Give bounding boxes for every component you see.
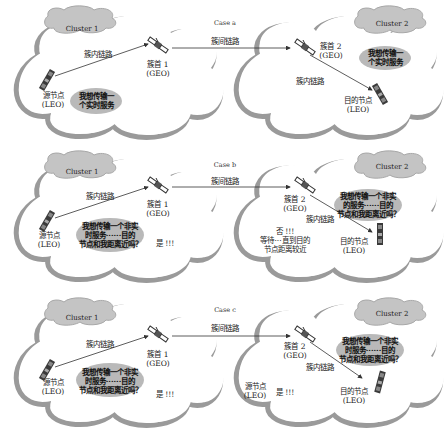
source-node-label: 源节点(LEO) (38, 378, 68, 396)
cluster-head-2-label: 簇首 2(GEO) (280, 342, 310, 360)
cluster-head-2-label: 簇首 2(GEO) (316, 42, 346, 60)
cluster-1-label: Cluster 1 (62, 25, 102, 34)
cluster-1-label: Cluster 1 (62, 314, 102, 323)
cluster-head-1-label: 簇首 1(GEO) (143, 350, 173, 368)
case-label: Case b (205, 161, 245, 170)
left-reply-text: 是 !!! (150, 239, 180, 248)
right-bubble-text: 我想传输一个非实的服务······目的节点和我距离近吗？ (336, 192, 400, 219)
case-a-panel: Case a Cluster 1 Cluster 2 簇间链路 簇内链路 簇内链… (0, 0, 447, 145)
right-intra-link-label: 簇内链路 (300, 215, 340, 224)
left-bubble-text: 我想传输一个非实时服务······目的节点和我距离近吗？ (78, 222, 142, 249)
dest-node-label: 目的节点(LEO) (340, 96, 376, 114)
right-intra-link-label: 簇内链路 (290, 77, 330, 86)
cluster-2-label: Cluster 2 (372, 20, 412, 29)
inter-link-label: 簇间链路 (205, 324, 245, 333)
left-reply-text: 是 !!! (150, 390, 180, 399)
cluster-2-label: Cluster 2 (372, 310, 412, 319)
dest-node-label: 目的节点(LEO) (336, 237, 372, 255)
cluster-head-2-label: 簇首 2(GEO) (280, 195, 310, 213)
right-intra-link-label: 簇内链路 (300, 363, 340, 372)
source-node-label: 源节点(LEO) (38, 91, 68, 109)
left-intra-link-label: 簇内链路 (78, 50, 118, 59)
leo-satellite-icon (377, 223, 383, 245)
case-label: Case c (205, 306, 245, 315)
inter-link-label: 簇间链路 (205, 37, 245, 46)
right-source-node-label: 源节点(LEO) (240, 382, 270, 400)
right-reply-text: 否 !!!等待···直到目的节点距离较近 (250, 227, 320, 254)
cluster-2-label: Cluster 2 (372, 163, 412, 172)
case-label: Case a (205, 19, 245, 28)
right-bubble-text: 我想传输一个非实时服务······目的节点和我距离近吗？ (338, 337, 402, 364)
left-bubble-text: 我想传输一个实时服务 (72, 92, 120, 110)
dest-node-label: 目的节点(LEO) (336, 387, 372, 405)
inter-link-label: 簇间链路 (205, 177, 245, 186)
left-bubble-text: 我想传输一个非实时服务······目的节点和我距离近吗？ (78, 368, 142, 395)
cluster-1-label: Cluster 1 (62, 168, 102, 177)
left-intra-link-label: 簇内链路 (80, 192, 120, 201)
left-intra-link-label: 簇内链路 (80, 340, 120, 349)
right-cluster-cloud (236, 16, 443, 138)
right-bubble-text: 我想传输一个实时服务 (361, 49, 409, 67)
case-c-panel: Case c Cluster 1 Cluster 2 簇间链路 簇内链路 簇内链… (0, 290, 447, 435)
cluster-head-1-label: 簇首 1(GEO) (143, 200, 173, 218)
source-node-label: 源节点(LEO) (34, 231, 64, 249)
cluster-head-1-label: 簇首 1(GEO) (143, 60, 173, 78)
right-reply-text: 是 !!! (270, 388, 300, 397)
case-b-panel: Case b Cluster 1 Cluster 2 簇间链路 簇内链路 簇内链… (0, 145, 447, 290)
